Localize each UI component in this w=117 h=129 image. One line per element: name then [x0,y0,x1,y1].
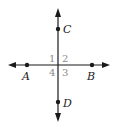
point-label-c: C [63,23,72,36]
angle-label-4: 4 [49,67,55,78]
point-d [56,100,60,104]
arrowhead-up-icon [55,8,61,17]
point-label-b: B [86,70,95,83]
angle-label-3: 3 [62,67,68,78]
arrowhead-right-icon [102,62,110,68]
perpendicular-lines-diagram: A B C D 1 2 3 4 [0,0,117,129]
angle-label-2: 2 [62,53,68,64]
point-a [25,63,29,67]
point-label-d: D [62,97,72,110]
point-c [56,27,60,31]
point-b [90,63,94,67]
arrowhead-left-icon [8,62,16,68]
angle-label-1: 1 [49,53,55,64]
point-label-a: A [21,70,30,83]
arrowhead-down-icon [55,113,61,122]
